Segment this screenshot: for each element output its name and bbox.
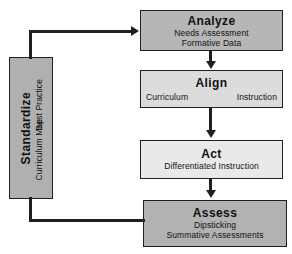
node-act-title: Act xyxy=(201,148,222,161)
node-standardize-sub-curriculum-map: Curriculum Map xyxy=(34,119,44,180)
node-analyze[interactable]: Analyze Needs Assessment Formative Data xyxy=(140,10,283,51)
node-analyze-title: Analyze xyxy=(187,15,235,28)
connector-assess-to-standardize-run xyxy=(29,219,137,222)
node-align[interactable]: Align Curriculum Instruction xyxy=(140,70,283,108)
node-standardize-sublabels: Best Practice Curriculum Map xyxy=(34,58,44,198)
node-act[interactable]: Act Differentiated Instruction xyxy=(140,140,283,179)
node-align-sub-instruction: Instruction xyxy=(237,92,277,102)
arrow-down-icon-analyze-to-align xyxy=(206,61,216,69)
node-align-sublabel-row: Curriculum Instruction xyxy=(141,92,282,102)
node-act-sub-differentiated-instruction: Differentiated Instruction xyxy=(164,161,259,171)
arrow-down-icon-act-to-assess xyxy=(206,190,216,198)
node-standardize[interactable]: Standardize Best Practice Curriculum Map xyxy=(9,57,53,199)
arrow-right-icon-into-analyze xyxy=(131,26,139,36)
connector-align-to-act-stem xyxy=(209,108,212,131)
node-analyze-sub-needs-assessment: Needs Assessment xyxy=(174,28,248,38)
node-assess-sub-summative-assessments: Summative Assessments xyxy=(166,230,263,240)
node-analyze-sub-formative-data: Formative Data xyxy=(182,38,242,48)
connector-standardize-to-analyze-run xyxy=(29,30,134,33)
node-align-title: Align xyxy=(196,77,228,90)
process-flow-diagram: Standardize Best Practice Curriculum Map… xyxy=(0,0,292,254)
connector-standardize-to-analyze-riser xyxy=(29,30,32,59)
node-standardize-title: Standardize xyxy=(19,92,33,164)
node-assess-sub-dipsticking: Dipsticking xyxy=(194,220,236,230)
arrow-down-icon-align-to-act xyxy=(206,130,216,138)
connector-assess-to-standardize-riser xyxy=(29,197,32,221)
node-assess-title: Assess xyxy=(193,207,237,220)
node-align-sub-curriculum: Curriculum xyxy=(146,92,188,102)
node-assess[interactable]: Assess Dipsticking Summative Assessments xyxy=(143,200,287,247)
